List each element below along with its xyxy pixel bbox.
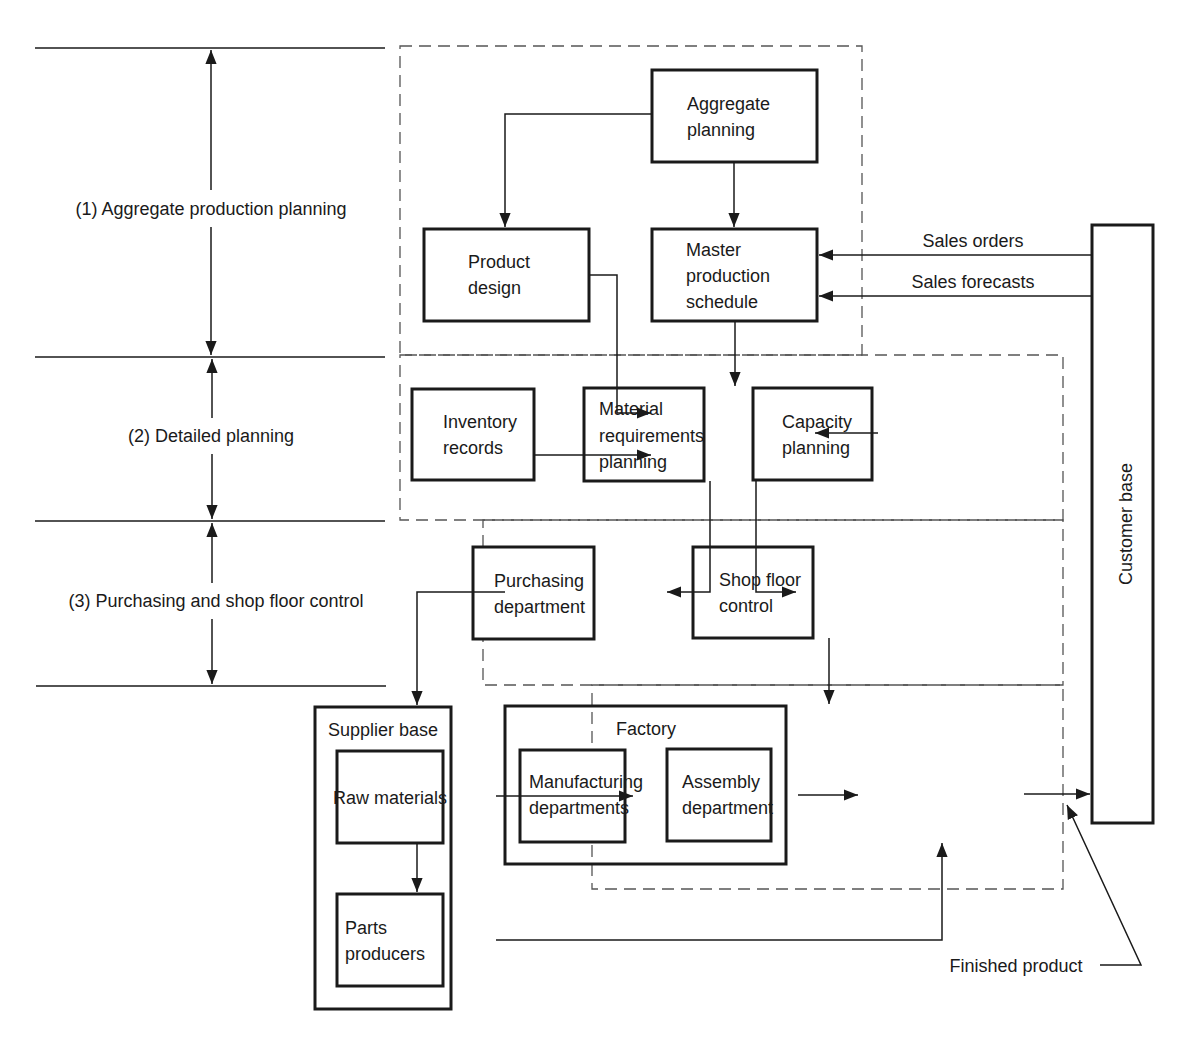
svg-text:planning: planning	[687, 120, 755, 140]
node-assembly-department: Assembly department	[667, 749, 773, 841]
arrow-aggregate-to-product-design	[505, 114, 652, 227]
svg-text:departments: departments	[529, 798, 629, 818]
svg-text:Customer base: Customer base	[1116, 463, 1136, 585]
label-finished-product: Finished product	[949, 956, 1082, 976]
level-3-label: (3) Purchasing and shop floor control	[68, 591, 363, 611]
label-sales-orders: Sales orders	[922, 231, 1023, 251]
svg-text:Parts: Parts	[345, 918, 387, 938]
svg-text:Supplier base: Supplier base	[328, 720, 438, 740]
svg-text:Inventory: Inventory	[443, 412, 517, 432]
arrow-parts-to-assembly	[496, 843, 942, 940]
node-raw-materials: Raw materials	[333, 751, 447, 843]
finished-product-leader	[1067, 805, 1141, 965]
node-master-production-schedule: Master production schedule	[652, 229, 817, 321]
svg-text:Aggregate: Aggregate	[687, 94, 770, 114]
production-planning-diagram: (1) Aggregate production planning (2) De…	[0, 0, 1188, 1043]
svg-text:control: control	[719, 596, 773, 616]
svg-text:Raw materials: Raw materials	[333, 788, 447, 808]
svg-text:planning: planning	[782, 438, 850, 458]
label-sales-forecasts: Sales forecasts	[911, 272, 1034, 292]
svg-text:production: production	[686, 266, 770, 286]
svg-text:Shop floor: Shop floor	[719, 570, 801, 590]
svg-text:department: department	[682, 798, 773, 818]
svg-text:Product: Product	[468, 252, 530, 272]
node-parts-producers: Parts producers	[337, 894, 443, 986]
svg-text:requirements: requirements	[599, 426, 704, 446]
node-aggregate-planning: Aggregate planning	[652, 70, 817, 162]
node-capacity-planning: Capacity planning	[753, 388, 872, 480]
svg-text:producers: producers	[345, 944, 425, 964]
node-purchasing-department: Purchasing department	[473, 547, 594, 639]
level-1-label: (1) Aggregate production planning	[75, 199, 346, 219]
svg-text:Master: Master	[686, 240, 741, 260]
svg-text:Manufacturing: Manufacturing	[529, 772, 643, 792]
node-product-design: Product design	[424, 229, 589, 321]
region-factory-operations	[592, 685, 1063, 889]
svg-text:design: design	[468, 278, 521, 298]
level-2-label: (2) Detailed planning	[128, 426, 294, 446]
svg-text:records: records	[443, 438, 503, 458]
svg-text:Capacity: Capacity	[782, 412, 852, 432]
node-inventory-records: Inventory records	[412, 389, 534, 480]
svg-text:department: department	[494, 597, 585, 617]
svg-text:Purchasing: Purchasing	[494, 571, 584, 591]
svg-text:Material: Material	[599, 399, 663, 419]
svg-text:Assembly: Assembly	[682, 772, 760, 792]
node-material-requirements-planning: Material requirements planning	[584, 388, 704, 481]
node-customer-base: Customer base	[1092, 225, 1153, 823]
svg-text:schedule: schedule	[686, 292, 758, 312]
svg-text:Factory: Factory	[616, 719, 676, 739]
